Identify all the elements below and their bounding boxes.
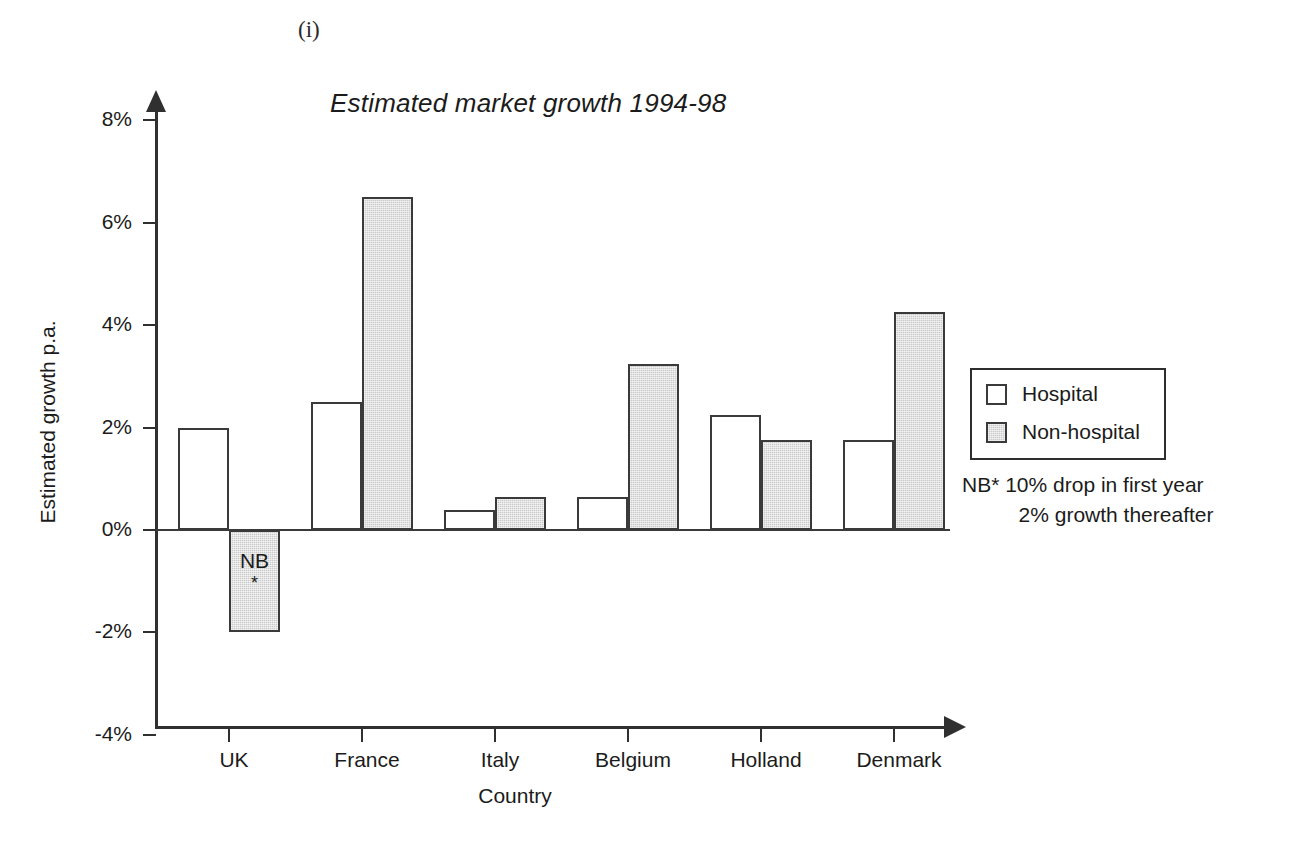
bar-uk-non-hospital: NB* (229, 530, 280, 632)
legend-item-hospital: Hospital (986, 382, 1150, 406)
legend: Hospital Non-hospital (970, 368, 1166, 460)
legend-label-hospital: Hospital (1022, 382, 1098, 406)
bar-annotation-label: NB (240, 549, 269, 572)
x-axis-title: Country (0, 784, 1030, 808)
bar-uk-hospital (178, 428, 229, 530)
bar-chart: Estimated market growth 1994-98 8%6%4%2%… (0, 0, 1312, 845)
y-axis-tick (143, 734, 156, 736)
y-axis-tick-label: 0% (62, 517, 132, 541)
bar-holland-hospital (710, 415, 761, 530)
legend-label-non-hospital: Non-hospital (1022, 420, 1140, 444)
bar-denmark-non-hospital (894, 312, 945, 530)
y-axis-tick-label: -2% (62, 619, 132, 643)
y-axis-tick-label: -4% (62, 722, 132, 746)
x-axis-tick (494, 729, 496, 742)
bar-france-hospital (311, 402, 362, 530)
white-square-icon (986, 384, 1007, 405)
y-axis-tick (143, 427, 156, 429)
y-axis-title: Estimated growth p.a. (36, 272, 60, 572)
y-axis-tick-label: 8% (62, 107, 132, 131)
bar-belgium-hospital (577, 497, 628, 530)
legend-footnote: NB* 10% drop in first year 2% growth the… (962, 470, 1292, 530)
bar-denmark-hospital (843, 440, 894, 530)
y-axis-tick-label: 4% (62, 312, 132, 336)
x-axis-tick-label: Denmark (819, 748, 979, 772)
x-axis-line (155, 726, 950, 729)
bar-annotation: NB* (231, 550, 278, 593)
y-axis-tick (143, 222, 156, 224)
x-axis-arrow-icon (944, 716, 966, 738)
y-axis-tick (143, 631, 156, 633)
bar-belgium-non-hospital (628, 364, 679, 530)
y-axis-tick (143, 324, 156, 326)
y-axis-tick (143, 529, 156, 531)
gray-square-icon (986, 422, 1007, 443)
x-axis-tick (760, 729, 762, 742)
x-axis-tick (361, 729, 363, 742)
x-axis-tick (228, 729, 230, 742)
bar-holland-non-hospital (761, 440, 812, 530)
y-axis-tick (143, 119, 156, 121)
bar-italy-non-hospital (495, 497, 546, 530)
chart-title: Estimated market growth 1994-98 (330, 88, 726, 119)
bar-italy-hospital (444, 510, 495, 530)
x-axis-tick (627, 729, 629, 742)
y-axis-tick-label: 6% (62, 210, 132, 234)
y-axis-tick-label: 2% (62, 415, 132, 439)
bar-france-non-hospital (362, 197, 413, 530)
x-axis-tick (893, 729, 895, 742)
footnote-line-2: 2% growth thereafter (962, 500, 1292, 530)
footnote-line-1: NB* 10% drop in first year (962, 470, 1292, 500)
y-axis-line (155, 108, 158, 729)
legend-item-non-hospital: Non-hospital (986, 420, 1150, 444)
bar-annotation-star: * (231, 574, 278, 593)
